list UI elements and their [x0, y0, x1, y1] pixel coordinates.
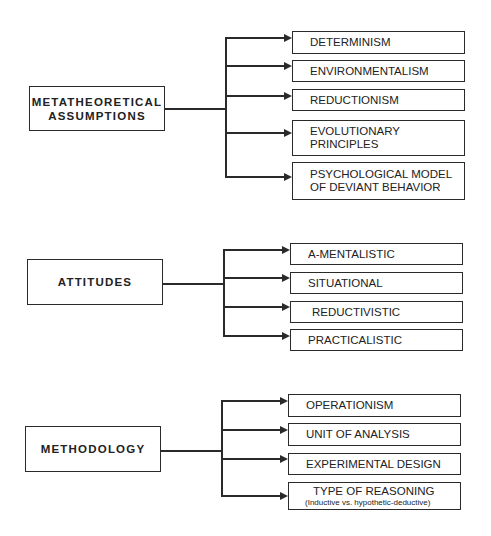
- item-label: DETERMINISM: [310, 36, 464, 49]
- item-label: OF DEVIANT BEHAVIOR: [310, 181, 464, 194]
- methodology-box: METHODOLOGY: [25, 426, 161, 472]
- branch-line: [221, 495, 281, 497]
- arrow-icon: [282, 303, 290, 311]
- group-label-line: ASSUMPTIONS: [32, 109, 163, 123]
- branch-line: [221, 458, 281, 460]
- branch-line: [223, 277, 283, 279]
- item-label: PSYCHOLOGICAL MODEL: [310, 168, 464, 181]
- item-experimental-design: EXPERIMENTAL DESIGN: [288, 453, 461, 475]
- item-label: TYPE OF REASONING: [313, 485, 460, 498]
- branch-line: [223, 249, 283, 251]
- arrow-icon: [284, 62, 292, 70]
- item-practicalistic: PRACTICALISTIC: [290, 329, 463, 351]
- branch-line: [225, 37, 285, 39]
- item-environmentalism: ENVIRONMENTALISM: [292, 60, 465, 82]
- item-type-of-reasoning: TYPE OF REASONING (Inductive vs. hypothe…: [288, 482, 461, 510]
- arrow-icon: [280, 455, 288, 463]
- arrow-icon: [280, 492, 288, 500]
- item-label: SITUATIONAL: [308, 277, 462, 290]
- arrow-icon: [280, 397, 288, 405]
- item-reductionism: REDUCTIONISM: [292, 89, 465, 111]
- item-psychological-model: PSYCHOLOGICAL MODEL OF DEVIANT BEHAVIOR: [292, 162, 465, 200]
- branch-line: [221, 400, 281, 402]
- arrow-icon: [282, 246, 290, 254]
- item-label: UNIT OF ANALYSIS: [306, 428, 460, 441]
- item-label: EXPERIMENTAL DESIGN: [306, 458, 460, 471]
- arrow-icon: [282, 274, 290, 282]
- item-label: OPERATIONISM: [306, 399, 460, 412]
- arrow-icon: [284, 92, 292, 100]
- metatheoretical-assumptions-box: METATHEORETICAL ASSUMPTIONS: [29, 86, 165, 131]
- arrow-icon: [284, 34, 292, 42]
- item-determinism: DETERMINISM: [292, 31, 465, 54]
- trunk-line: [223, 249, 225, 337]
- trunk-line: [225, 37, 227, 177]
- item-label: REDUCTIVISTIC: [312, 306, 462, 319]
- arrow-icon: [280, 426, 288, 434]
- arrow-icon: [282, 332, 290, 340]
- item-label: PRACTICALISTIC: [308, 334, 462, 347]
- item-a-mentalistic: A-MENTALISTIC: [290, 243, 463, 265]
- branch-line: [225, 176, 285, 178]
- arrow-icon: [284, 173, 292, 181]
- trunk-line: [221, 400, 223, 496]
- connector-line: [161, 450, 222, 452]
- group-label-line: METHODOLOGY: [41, 442, 146, 456]
- item-reductivistic: REDUCTIVISTIC: [290, 301, 463, 323]
- item-unit-of-analysis: UNIT OF ANALYSIS: [288, 423, 461, 446]
- item-sublabel: (Inductive vs. hypothetic-deductive): [305, 498, 460, 508]
- item-label: REDUCTIONISM: [310, 94, 464, 107]
- branch-line: [223, 306, 283, 308]
- branch-line: [225, 65, 285, 67]
- arrow-icon: [284, 129, 292, 137]
- branch-line: [221, 429, 281, 431]
- item-label: EVOLUTIONARY: [310, 125, 464, 138]
- item-label: PRINCIPLES: [310, 138, 464, 151]
- branch-line: [225, 132, 285, 134]
- attitudes-box: ATTITUDES: [27, 259, 163, 305]
- connector-line: [165, 108, 226, 110]
- connector-line: [163, 283, 224, 285]
- item-evolutionary-principles: EVOLUTIONARY PRINCIPLES: [292, 120, 465, 156]
- branch-line: [223, 335, 283, 337]
- item-situational: SITUATIONAL: [290, 272, 463, 294]
- branch-line: [225, 95, 285, 97]
- group-label-line: METATHEORETICAL: [32, 95, 163, 109]
- item-operationism: OPERATIONISM: [288, 394, 461, 417]
- item-label: A-MENTALISTIC: [308, 248, 462, 261]
- group-label-line: ATTITUDES: [58, 275, 132, 289]
- item-label: ENVIRONMENTALISM: [310, 65, 464, 78]
